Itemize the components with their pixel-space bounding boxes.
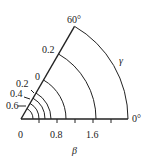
contour-arcs xyxy=(27,26,128,119)
beta-tick-1.6: 1.6 xyxy=(86,129,99,140)
contour-label-0: 0 xyxy=(35,71,40,82)
label-gamma: γ xyxy=(119,55,124,66)
label-60-degree: 60° xyxy=(67,14,81,25)
contour-label-0.6: 0.6 xyxy=(6,100,19,111)
contour-label-top-0.2: 0.2 xyxy=(42,44,55,55)
beta-axis-label: β xyxy=(71,145,77,156)
beta-tick-0: 0 xyxy=(18,129,23,140)
polar-sector-diagram: 60° 0° γ 0.2 0 0.2 0.4 0.6 0 0.8 1.6 β xyxy=(0,0,150,163)
beta-tick-0.8: 0.8 xyxy=(50,129,63,140)
contour-label-0.4: 0.4 xyxy=(10,88,23,99)
label-0-degree: 0° xyxy=(132,113,141,124)
